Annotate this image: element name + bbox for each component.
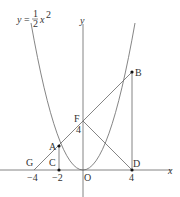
label-O: O bbox=[84, 172, 91, 183]
label-C: C bbox=[49, 157, 56, 168]
label-A: A bbox=[49, 141, 57, 152]
point-A bbox=[57, 144, 60, 147]
eq-y: y bbox=[16, 14, 22, 25]
eq-equals: = bbox=[24, 14, 30, 25]
eq-x: x bbox=[39, 14, 45, 25]
tick-neg4: −4 bbox=[27, 172, 38, 183]
y-axis-label: y bbox=[79, 15, 85, 26]
label-B: B bbox=[135, 67, 142, 78]
parabola-diagram: y = 1 2 x 2 y x A B C D F G O −4 −2 4 4 bbox=[0, 0, 180, 197]
label-G: G bbox=[26, 157, 33, 168]
point-B bbox=[130, 70, 133, 73]
eq-exponent: 2 bbox=[46, 9, 51, 20]
label-D: D bbox=[133, 158, 140, 169]
tick-f4: 4 bbox=[76, 124, 81, 135]
label-F: F bbox=[74, 113, 80, 124]
x-axis-label: x bbox=[167, 165, 173, 176]
tick-neg2: −2 bbox=[52, 172, 63, 183]
eq-denominator: 2 bbox=[33, 18, 38, 29]
tick-pos4: 4 bbox=[129, 172, 134, 183]
segment-FD bbox=[83, 121, 132, 170]
